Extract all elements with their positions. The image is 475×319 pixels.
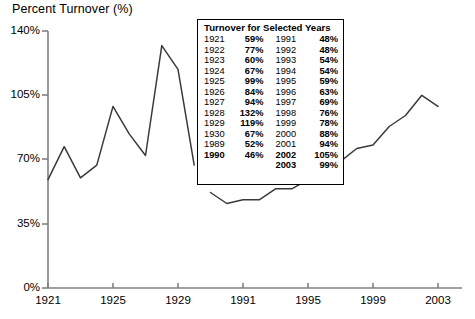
- cell-spacer: [263, 77, 275, 87]
- cell-value-right: 94%: [306, 139, 338, 149]
- cell-value-right: 48%: [306, 35, 338, 45]
- cell-year-right: 2002: [276, 150, 306, 160]
- cell-value-left: 84%: [230, 87, 263, 97]
- turnover-line-chart: Percent Turnover (%) 140% 1: [0, 0, 475, 319]
- cell-value-left: 99%: [230, 77, 263, 87]
- x-tick-label-1991: 1991: [218, 294, 268, 306]
- data-table-header: Turnover for Selected Years: [204, 23, 338, 35]
- cell-year-left: 1989: [204, 139, 230, 149]
- cell-year-right: 2003: [276, 160, 306, 170]
- cell-value-right: 48%: [306, 45, 338, 55]
- cell-spacer: [263, 56, 275, 66]
- cell-value-left: 67%: [230, 129, 263, 139]
- cell-value-right: 63%: [306, 87, 338, 97]
- cell-spacer: [263, 139, 275, 149]
- table-row: 192599%199559%: [204, 77, 338, 87]
- cell-year-left: 1924: [204, 66, 230, 76]
- y-axis-ticks: [42, 31, 48, 288]
- cell-value-right: 76%: [306, 108, 338, 118]
- cell-value-left: 46%: [230, 150, 263, 160]
- cell-year-left: 1922: [204, 45, 230, 55]
- cell-year-right: 1993: [276, 56, 306, 66]
- cell-spacer: [263, 150, 275, 160]
- cell-value-right: 54%: [306, 56, 338, 66]
- cell-value-left: 77%: [230, 45, 263, 55]
- cell-year-left: 1923: [204, 56, 230, 66]
- cell-value-right: 54%: [306, 66, 338, 76]
- y-tick-label-0: 0%: [0, 281, 40, 293]
- cell-year-left: [204, 160, 230, 170]
- cell-value-right: 88%: [306, 129, 338, 139]
- cell-year-left: 1929: [204, 118, 230, 128]
- cell-spacer: [263, 160, 275, 170]
- cell-value-left: 94%: [230, 98, 263, 108]
- cell-spacer: [263, 108, 275, 118]
- cell-year-right: 1999: [276, 118, 306, 128]
- cell-value-right: 78%: [306, 118, 338, 128]
- table-row: 1929119%199978%: [204, 118, 338, 128]
- table-row: 192360%199354%: [204, 56, 338, 66]
- cell-value-right: 59%: [306, 77, 338, 87]
- table-row: 198952%200194%: [204, 139, 338, 149]
- cell-value-left: 59%: [230, 35, 263, 45]
- data-table-body: 192159%199148%192277%199248%192360%19935…: [204, 35, 338, 171]
- series-line-1921-1930: [48, 46, 194, 180]
- table-row: 193067%200088%: [204, 129, 338, 139]
- y-tick-label-105: 105%: [0, 88, 40, 100]
- table-row: 192277%199248%: [204, 45, 338, 55]
- cell-value-left: 67%: [230, 66, 263, 76]
- x-tick-label-1921: 1921: [23, 294, 73, 306]
- cell-value-left: 132%: [230, 108, 263, 118]
- cell-spacer: [263, 118, 275, 128]
- cell-value-right: 105%: [306, 150, 338, 160]
- y-tick-label-140: 140%: [0, 24, 40, 36]
- cell-year-left: 1928: [204, 108, 230, 118]
- cell-year-right: 2001: [276, 139, 306, 149]
- cell-year-right: 2000: [276, 129, 306, 139]
- x-tick-label-1995: 1995: [283, 294, 333, 306]
- table-row: 192794%199769%: [204, 98, 338, 108]
- cell-value-right: 69%: [306, 98, 338, 108]
- cell-year-left: 1990: [204, 150, 230, 160]
- x-tick-label-1929: 1929: [153, 294, 203, 306]
- cell-year-left: 1927: [204, 98, 230, 108]
- cell-spacer: [263, 66, 275, 76]
- table-row: 199046%2002105%: [204, 150, 338, 160]
- cell-year-left: 1925: [204, 77, 230, 87]
- cell-value-right: 99%: [306, 160, 338, 170]
- table-row: 192159%199148%: [204, 35, 338, 45]
- y-tick-label-70: 70%: [0, 152, 40, 164]
- cell-year-right: 1996: [276, 87, 306, 97]
- cell-spacer: [263, 35, 275, 45]
- cell-value-left: [230, 160, 263, 170]
- cell-year-right: 1991: [276, 35, 306, 45]
- cell-spacer: [263, 87, 275, 97]
- x-tick-label-1999: 1999: [348, 294, 398, 306]
- y-tick-label-35: 35%: [0, 217, 40, 229]
- table-row: 200399%: [204, 160, 338, 170]
- cell-spacer: [263, 45, 275, 55]
- table-row: 192684%199663%: [204, 87, 338, 97]
- cell-year-left: 1921: [204, 35, 230, 45]
- cell-year-right: 1992: [276, 45, 306, 55]
- cell-value-left: 60%: [230, 56, 263, 66]
- cell-year-left: 1926: [204, 87, 230, 97]
- cell-year-right: 1997: [276, 98, 306, 108]
- selected-years-data-table: Turnover for Selected Years 192159%19914…: [197, 19, 344, 185]
- cell-year-left: 1930: [204, 129, 230, 139]
- table-row: 192467%199454%: [204, 66, 338, 76]
- cell-spacer: [263, 129, 275, 139]
- cell-year-right: 1998: [276, 108, 306, 118]
- cell-year-right: 1995: [276, 77, 306, 87]
- x-tick-label-2003: 2003: [413, 294, 463, 306]
- cell-spacer: [263, 98, 275, 108]
- cell-value-left: 52%: [230, 139, 263, 149]
- cell-year-right: 1994: [276, 66, 306, 76]
- table-row: 1928132%199876%: [204, 108, 338, 118]
- cell-value-left: 119%: [230, 118, 263, 128]
- x-tick-label-1925: 1925: [88, 294, 138, 306]
